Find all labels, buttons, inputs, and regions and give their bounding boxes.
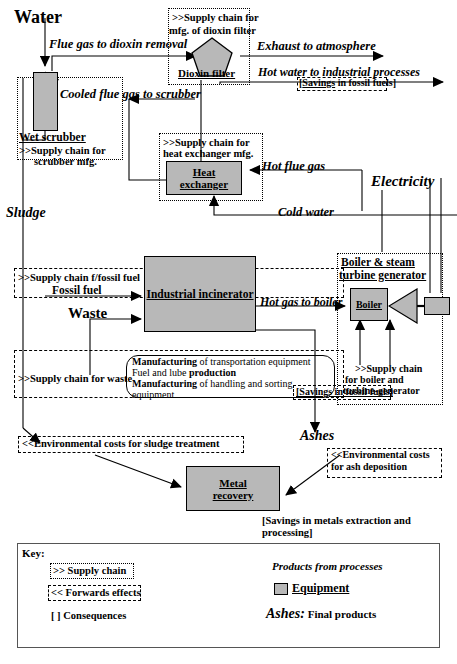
label-water: Water bbox=[14, 8, 62, 27]
manufacturing-l1-bold: Manufacturing bbox=[132, 356, 197, 367]
supply-chain-waste: >>Supply chain for waste bbox=[18, 373, 132, 384]
supply-chain-fossil-fuel: >>Supply chain f/fossil fuel bbox=[18, 272, 140, 283]
ash-env-cost-line2: for ash deposition bbox=[331, 462, 407, 473]
wet-scrubber-label: Wet scrubber bbox=[19, 131, 86, 143]
label-hot-gas-to-boiler: Hot gas to boiler bbox=[260, 296, 342, 309]
key-supply-chain-label: >> Supply chain bbox=[53, 565, 126, 576]
heat-exchanger-shape[interactable]: Heat exchanger bbox=[166, 161, 242, 195]
savings-metals-line1: [Savings in metals extraction and bbox=[262, 515, 411, 526]
generator-shape[interactable] bbox=[424, 297, 450, 315]
label-flue-gas: Flue gas to dioxin removal bbox=[49, 38, 187, 52]
sludge-env-cost-label: <<Environmental costs for sludge treatme… bbox=[22, 438, 219, 449]
savings-rest: in fossil fuels] bbox=[335, 77, 396, 88]
label-cold-water: Cold water bbox=[278, 206, 334, 220]
dioxin-filter-label: Dioxin filter bbox=[178, 68, 235, 80]
manufacturing-l2-rest: Fuel and lube bbox=[132, 367, 189, 378]
metal-recovery-label-2: recovery bbox=[213, 489, 254, 501]
supply-chain-dioxin-line1: >>Supply chain for bbox=[172, 12, 259, 23]
label-ashes: Ashes bbox=[300, 428, 334, 443]
key-final-products-text: Final products bbox=[305, 608, 376, 620]
supply-chain-scrubber-line2: scrubber mfg. bbox=[34, 156, 97, 167]
key-consequences-label: [ ] Consequences bbox=[51, 610, 126, 621]
key-title: Key: bbox=[22, 548, 45, 560]
turbine-shape[interactable] bbox=[388, 288, 418, 324]
boiler-group-line2: turbine generator bbox=[339, 269, 426, 281]
manufacturing-l3-bold: Manufacturing bbox=[132, 378, 197, 389]
industrial-incinerator-shape[interactable]: Industrial incinerator bbox=[144, 256, 256, 332]
heat-exchanger-label-2: exchanger bbox=[180, 178, 228, 190]
label-waste: Waste bbox=[68, 305, 107, 321]
key-forwards-effects-label: << Forwards effects bbox=[51, 587, 141, 598]
metal-recovery-shape[interactable]: Metal recovery bbox=[186, 466, 280, 511]
key-ashes-word: Ashes: bbox=[266, 606, 305, 621]
manufacturing-l1-rest: of transportation equipment bbox=[197, 356, 311, 367]
boiler-savings-label: [Savings in fossil fuels] bbox=[296, 387, 393, 398]
label-sludge: Sludge bbox=[6, 205, 46, 220]
manufacturing-l2-bold: production bbox=[189, 367, 236, 378]
key-equipment-swatch bbox=[274, 583, 288, 595]
key-final-products: Ashes: Final products bbox=[266, 606, 376, 621]
supply-chain-dioxin-line2: mfg. of dioxin filter bbox=[169, 25, 256, 36]
supply-chain-scrubber-line1: >>Supply chain for bbox=[19, 145, 106, 156]
label-hot-flue-gas: Hot flue gas bbox=[262, 160, 325, 174]
key-equipment-label: Equipment bbox=[292, 582, 349, 595]
label-fossil-fuel: Fossil fuel bbox=[52, 284, 102, 296]
manufacturing-l3-rest: of handling and sorting bbox=[197, 378, 293, 389]
heat-exchanger-label-1: Heat bbox=[193, 166, 216, 178]
key-products-label: Products from processes bbox=[272, 561, 383, 573]
label-electricity: Electricity bbox=[371, 173, 434, 189]
sludge-env-cost-text: <<Environmental costs for sludge treatme… bbox=[22, 438, 219, 449]
industrial-incinerator-label: Industrial incinerator bbox=[146, 288, 253, 300]
diagram-canvas: Heat exchanger Industrial incinerator Bo… bbox=[0, 0, 457, 664]
boiler-label: Boiler bbox=[356, 299, 382, 310]
label-cooled-flue-gas: Cooled flue gas to scrubber bbox=[60, 88, 201, 102]
ash-env-cost-line1: <<Environmental costs bbox=[331, 450, 430, 461]
wet-scrubber-shape[interactable] bbox=[33, 72, 58, 131]
label-exhaust: Exhaust to atmosphere bbox=[257, 40, 376, 54]
boiler-shape[interactable]: Boiler bbox=[350, 288, 388, 321]
arrow-sludge-cost-to-metal bbox=[95, 455, 181, 487]
savings-metals-line2: processing] bbox=[262, 527, 313, 538]
savings-word: Savings bbox=[302, 77, 335, 88]
savings-fossil-fuels-top: [Savings in fossil fuels] bbox=[299, 78, 396, 89]
supply-chain-he-line2: heat exchanger mfg. bbox=[163, 148, 254, 159]
metal-recovery-label-1: Metal bbox=[219, 477, 246, 489]
boiler-group-line1: Boiler & steam bbox=[341, 256, 415, 268]
manufacturing-line-4: equipment bbox=[132, 390, 174, 401]
supply-chain-he-line1: >>Supply chain for bbox=[163, 137, 250, 148]
